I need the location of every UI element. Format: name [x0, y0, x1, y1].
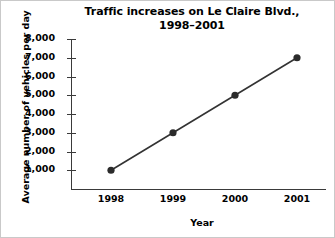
- line-series: [71, 39, 329, 191]
- chart-title-line-1: Traffic increases on Le Claire Blvd.,: [85, 5, 300, 18]
- y-tick-label: 4,000: [9, 107, 55, 118]
- data-point-2001: [293, 54, 300, 61]
- data-point-2000: [231, 92, 238, 99]
- plot-area: 8,0007,0006,0005,0004,0003,0002,0001,000…: [71, 39, 329, 191]
- y-tick-label: 2,000: [9, 145, 55, 156]
- y-tick-label: 8,000: [9, 32, 55, 43]
- data-point-1999: [169, 129, 176, 136]
- x-tick-label: 1999: [150, 193, 196, 204]
- y-tick-label: 7,000: [9, 51, 55, 62]
- x-tick-label: 2001: [274, 193, 320, 204]
- chart-figure: Traffic increases on Le Claire Blvd., 19…: [0, 0, 335, 238]
- data-point-1998: [107, 167, 114, 174]
- chart-title: Traffic increases on Le Claire Blvd., 19…: [53, 5, 331, 33]
- x-tick-label: 2000: [212, 193, 258, 204]
- series-line-path: [111, 58, 297, 171]
- y-tick-label: 5,000: [9, 88, 55, 99]
- x-axis-title: Year: [71, 217, 333, 228]
- y-tick-label: 6,000: [9, 70, 55, 81]
- y-tick-label: 1,000: [9, 163, 55, 174]
- y-tick-label: 3,000: [9, 126, 55, 137]
- chart-title-line-2: 1998–2001: [53, 19, 331, 33]
- x-tick-label: 1998: [88, 193, 134, 204]
